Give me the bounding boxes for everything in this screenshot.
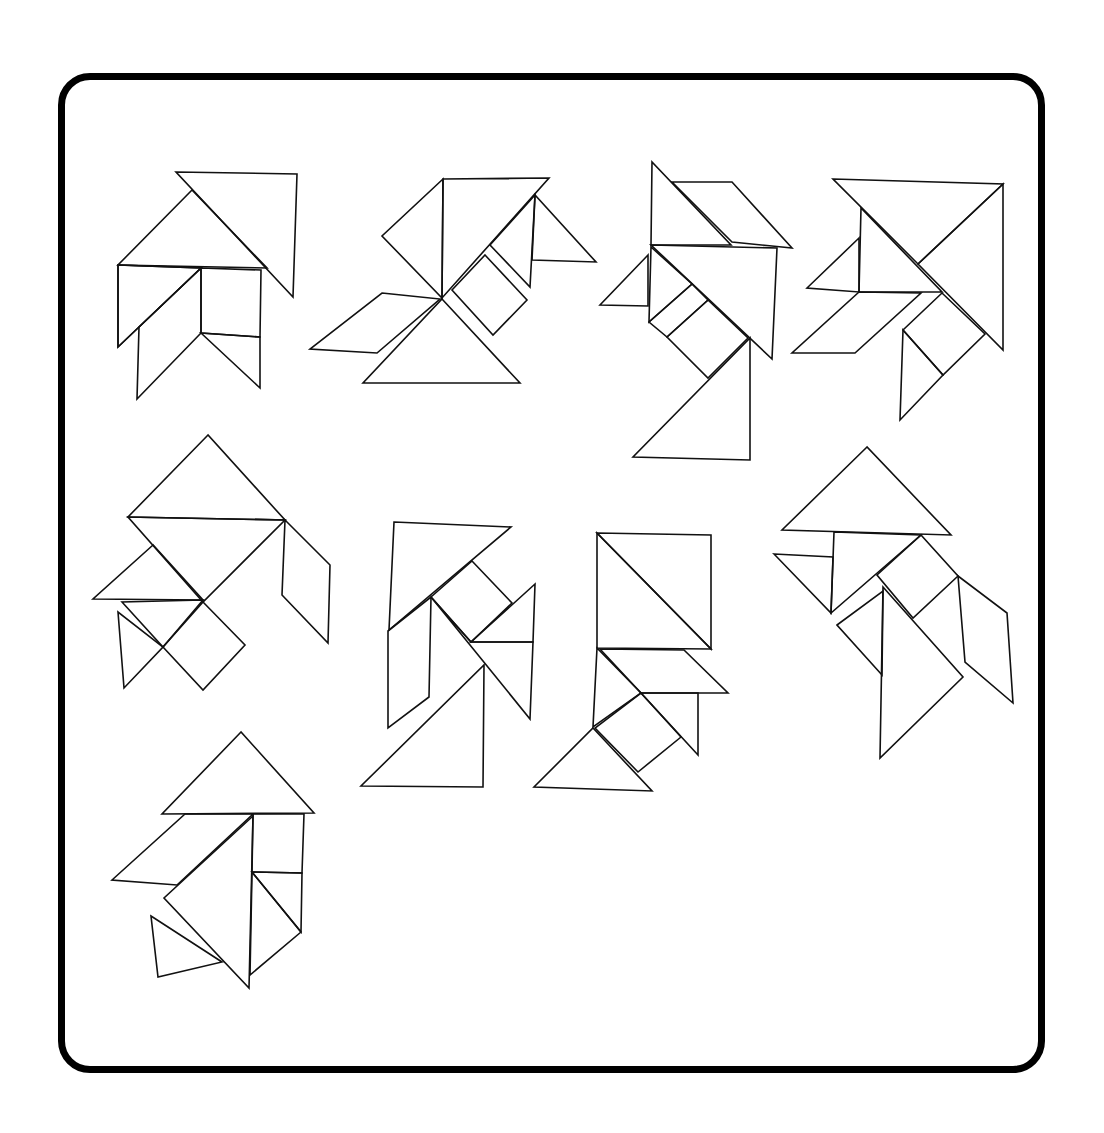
tangram-piece [93, 545, 203, 600]
tangram-piece [649, 284, 708, 337]
tangram-piece [672, 182, 792, 248]
figure-1 [118, 172, 297, 399]
tangram-piece [859, 208, 942, 292]
tangram-piece [651, 162, 731, 245]
tangram-piece [918, 184, 1003, 350]
tangram-piece [382, 179, 443, 298]
tangram-piece [128, 435, 285, 520]
tangram-piece [112, 814, 253, 885]
tangram-piece [792, 292, 921, 353]
tangram-piece [597, 533, 711, 649]
tangram-piece [162, 732, 314, 814]
tangram-piece [595, 693, 681, 772]
tangram-piece [388, 597, 431, 728]
figure-8 [774, 447, 1013, 758]
tangram-piece [534, 728, 652, 791]
tangram-piece [151, 916, 222, 977]
tangram-piece [282, 520, 330, 643]
tangram-piece [128, 517, 285, 602]
tangram-piece [593, 648, 641, 727]
tangram-piece [649, 247, 692, 322]
tangram-piece [774, 554, 833, 613]
tangram-piece [118, 190, 267, 268]
tangram-canvas [0, 0, 1104, 1133]
figure-4 [792, 179, 1003, 420]
tangram-piece [837, 591, 883, 675]
tangram-piece [431, 597, 533, 719]
tangram-piece [431, 561, 512, 642]
tangram-piece [831, 532, 921, 613]
tangram-piece [252, 814, 304, 873]
tangram-piece [363, 299, 520, 383]
tangram-piece [958, 576, 1013, 703]
tangram-piece [807, 238, 859, 292]
tangram-piece [118, 265, 201, 347]
tangram-piece [877, 535, 958, 618]
tangram-piece [633, 338, 750, 460]
tangram-piece [122, 600, 203, 647]
figure-9 [112, 732, 314, 988]
tangram-piece [667, 300, 748, 378]
tangram-piece [137, 268, 201, 399]
tangram-piece [250, 872, 301, 975]
tangram-piece [600, 255, 648, 306]
tangram-piece [164, 816, 253, 988]
tangram-piece [201, 268, 261, 337]
tangram-piece [782, 447, 951, 535]
figure-3 [600, 162, 792, 460]
tangram-piece [880, 587, 963, 758]
figure-2 [310, 178, 596, 383]
tangram-piece [163, 602, 245, 690]
tangram-piece [490, 195, 535, 287]
tangram-piece [361, 665, 484, 787]
tangram-piece [176, 172, 297, 297]
figure-5 [93, 435, 330, 690]
tangram-piece [201, 333, 260, 388]
tangram-piece [900, 330, 943, 420]
tangram-piece [389, 522, 511, 630]
tangram-piece [532, 195, 596, 262]
tangram-piece [903, 293, 985, 375]
figure-6 [361, 522, 535, 787]
figure-7 [534, 533, 728, 791]
tangram-piece [651, 245, 777, 359]
